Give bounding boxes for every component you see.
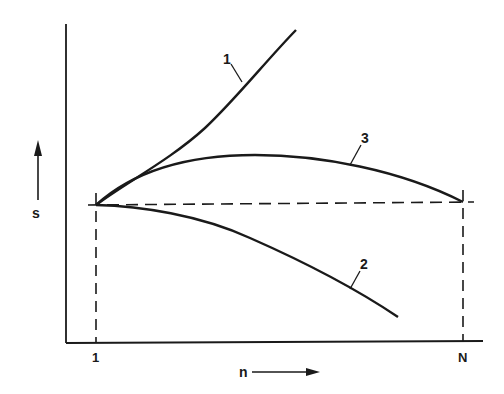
curve-1 xyxy=(96,30,296,205)
curve-2-label: 2 xyxy=(360,256,368,272)
curve-2-leader xyxy=(350,271,360,289)
curve-1-leader xyxy=(231,64,242,82)
x-tick-label-N: N xyxy=(458,350,467,365)
diagram-canvas: 1 3 2 s n 1 N xyxy=(0,0,504,394)
x-axis xyxy=(66,341,483,343)
x-axis-label: n xyxy=(239,364,248,380)
y-axis-label: s xyxy=(32,205,40,221)
curve-1-label: 1 xyxy=(223,51,231,67)
arrow-right-icon xyxy=(306,368,320,376)
horizontal-reference-dashed-line xyxy=(88,202,474,205)
curve-3 xyxy=(96,155,463,205)
curve-3-label: 3 xyxy=(361,130,369,146)
curve-2 xyxy=(96,205,398,317)
arrow-up-icon xyxy=(34,140,42,156)
x-tick-label-1: 1 xyxy=(92,350,99,365)
curve-3-leader xyxy=(350,145,361,165)
